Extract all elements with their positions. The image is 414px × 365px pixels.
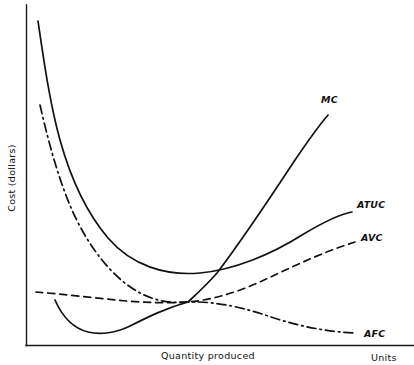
- chart-canvas: MC ATUC AVC AFC Quantity produced Units …: [0, 0, 414, 365]
- curve-mc: [55, 115, 328, 333]
- series-label-avc: AVC: [360, 232, 383, 243]
- series-label-atuc: ATUC: [356, 199, 385, 210]
- series-label-afc: AFC: [363, 328, 385, 339]
- curve-afc: [40, 105, 355, 333]
- series-label-mc: MC: [321, 94, 338, 105]
- curve-avc: [36, 242, 355, 303]
- cost-curves-chart: MC ATUC AVC AFC Quantity produced Units …: [0, 0, 414, 365]
- x-axis-end-label: Units: [371, 352, 397, 363]
- x-axis-title: Quantity produced: [161, 350, 255, 361]
- y-axis-title: Cost (dollars): [6, 144, 17, 212]
